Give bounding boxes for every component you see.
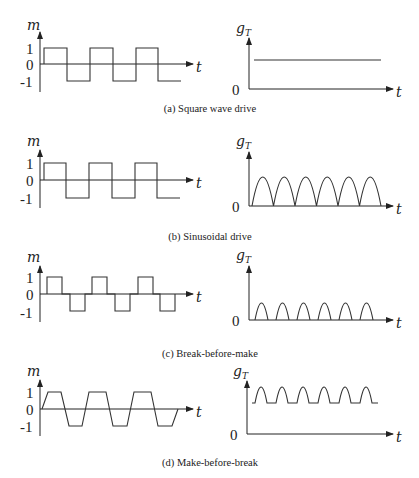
t-axis-label: t — [396, 201, 402, 217]
m-axis-label: m — [27, 249, 40, 265]
m-axis-label: m — [27, 17, 40, 33]
caption-d: (d) Make-before-break — [162, 457, 259, 469]
panel-b-modulation-plot: m t 1 0 -1 — [20, 133, 202, 208]
m-axis-label: m — [27, 363, 40, 379]
gapped-arches — [255, 303, 373, 320]
tick-1: 1 — [26, 385, 34, 401]
panel-d-conductance-plot: gT 0 t — [230, 363, 402, 445]
t-axis-label: t — [196, 289, 202, 305]
t-axis-label: t — [196, 175, 202, 191]
t-axis-label: t — [396, 84, 402, 100]
t-axis-label: t — [396, 315, 402, 331]
origin-label: 0 — [230, 427, 238, 443]
tick-1: 1 — [26, 270, 34, 286]
panel-a: m t 1 0 -1 gT 0 t (a) Square wave drive — [20, 17, 402, 115]
tick-1: 1 — [26, 156, 34, 172]
panel-c: m t 1 0 -1 gT 0 t (c) Break-before-make — [20, 247, 402, 360]
panel-d-modulation-plot: m t 1 0 -1 — [20, 363, 202, 436]
panel-a-conductance-plot: gT 0 t — [232, 20, 402, 100]
gT-axis-label: gT — [236, 20, 252, 38]
rectified-sine-arches — [252, 177, 381, 206]
tick-0: 0 — [26, 402, 34, 418]
panel-d: m t 1 0 -1 gT 0 t (d) Make-before-break — [20, 363, 402, 469]
caption-c: (c) Break-before-make — [162, 348, 258, 360]
tick-0: 0 — [26, 287, 34, 303]
origin-label: 0 — [232, 82, 240, 98]
t-axis-label: t — [196, 59, 202, 75]
panel-c-modulation-plot: m t 1 0 -1 — [20, 249, 202, 322]
gT-axis-label: gT — [236, 133, 252, 151]
tick-minus-1: -1 — [20, 74, 33, 90]
bumps-on-floor — [252, 387, 378, 403]
break-before-make-pulses — [47, 277, 175, 311]
panel-a-modulation-plot: m t 1 0 -1 — [20, 17, 202, 92]
tick-minus-1: -1 — [20, 419, 33, 435]
t-axis-label: t — [396, 429, 402, 445]
switching-waveform-figure: m t 1 0 -1 gT 0 t (a) Square wave drive … — [0, 0, 419, 478]
origin-label: 0 — [232, 313, 240, 329]
tick-0: 0 — [26, 57, 34, 73]
gT-axis-label: gT — [236, 247, 252, 265]
caption-a: (a) Square wave drive — [164, 103, 257, 115]
panel-b-conductance-plot: gT 0 t — [232, 133, 402, 217]
gT-axis-label: gT — [233, 363, 249, 381]
panel-b: m t 1 0 -1 gT 0 t (b) Sinusoidal drive — [20, 133, 402, 243]
t-axis-label: t — [196, 404, 202, 420]
m-axis-label: m — [27, 133, 40, 149]
caption-b: (b) Sinusoidal drive — [168, 231, 252, 243]
tick-0: 0 — [26, 173, 34, 189]
tick-1: 1 — [26, 41, 34, 57]
tick-minus-1: -1 — [20, 305, 33, 321]
panel-c-conductance-plot: gT 0 t — [232, 247, 402, 331]
origin-label: 0 — [232, 199, 240, 215]
tick-minus-1: -1 — [20, 191, 33, 207]
